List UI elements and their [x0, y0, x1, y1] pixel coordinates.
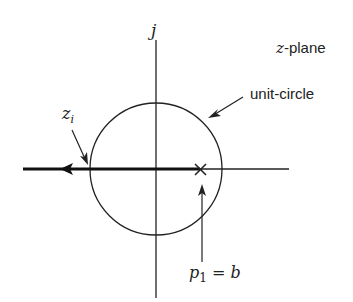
zi-pointer-arrowhead-icon	[80, 152, 88, 165]
zi-sub: i	[70, 113, 74, 126]
unit-circle-label: unit-circle	[250, 86, 314, 101]
z-plane-label: z-plane	[276, 40, 326, 56]
zi-label: zi	[62, 106, 74, 125]
pole-label: p1 = b	[189, 265, 241, 284]
z-plane-text: -plane	[284, 39, 326, 56]
zi-pointer-arrow	[72, 130, 86, 161]
unit-circle-arrowhead-icon	[208, 109, 221, 118]
pole-rest: = b	[207, 263, 241, 282]
imaginary-axis-label: j	[151, 22, 156, 39]
pole-sub: 1	[199, 271, 207, 285]
z-plane-var: z	[276, 39, 284, 57]
unit-circle-pointer-arrow	[212, 97, 243, 116]
pole-base: p	[189, 263, 199, 282]
